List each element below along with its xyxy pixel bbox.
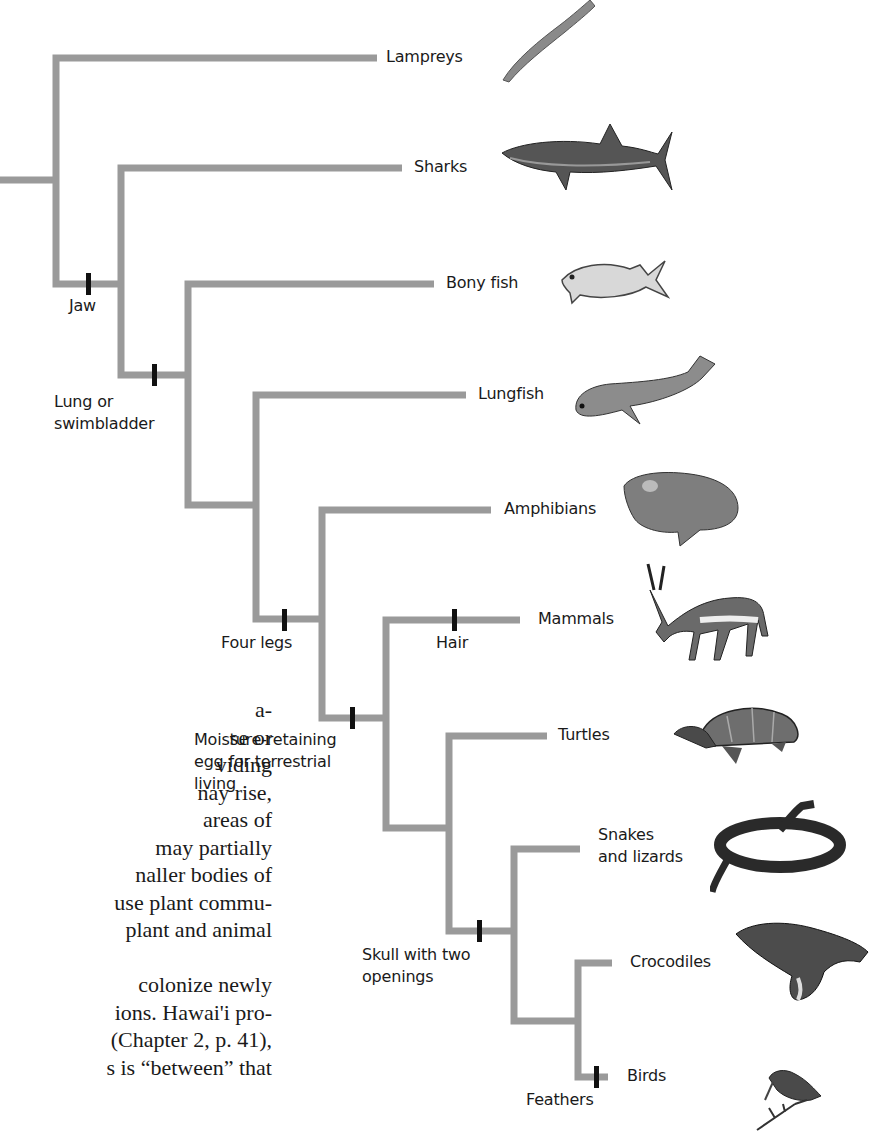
body-text-line: ions. Hawai'i pro- (0, 999, 272, 1027)
body-text-line: naller bodies of (0, 861, 272, 889)
lung-marker (152, 364, 157, 386)
body-text-line: plant and animal (0, 916, 272, 944)
shark-illustration (500, 118, 675, 198)
feathers-marker (594, 1066, 599, 1088)
trait-label-feathers: Feathers (526, 1090, 594, 1110)
taxon-label-lampreys: Lampreys (386, 47, 463, 67)
body-text-line: areas of (0, 806, 272, 834)
skull-marker (477, 920, 482, 942)
body-text-line: may partially (0, 834, 272, 862)
egg-marker (350, 707, 355, 729)
cladogram-figure: Lampreys Sharks Bony fish Lungfish Amphi… (0, 0, 872, 1133)
taxon-label-mammals: Mammals (538, 609, 614, 629)
trait-label-four-legs: Four legs (221, 633, 292, 653)
taxon-label-crocodiles: Crocodiles (630, 952, 711, 972)
body-text-line: (Chapter 2, p. 41), (0, 1026, 272, 1054)
trait-label-skull-line2: openings (362, 967, 433, 987)
branch-snakes (514, 849, 580, 1021)
taxon-label-amphibians: Amphibians (504, 499, 596, 519)
taxon-label-snakes-line1: Snakes (598, 825, 654, 845)
branch-turtles (449, 736, 547, 931)
trait-label-lung-line1: Lung or (54, 392, 113, 412)
taxon-label-birds: Birds (627, 1066, 666, 1086)
four-legs-marker (282, 609, 287, 631)
body-text-column: a- se or viding nay rise, areas of may p… (0, 696, 272, 1081)
snake-illustration (710, 800, 850, 895)
body-text-line: se or (0, 724, 272, 752)
body-text-line (0, 944, 272, 972)
lungfish-illustration (570, 350, 720, 430)
body-text-line: use plant commu- (0, 889, 272, 917)
bony-fish-illustration (560, 255, 670, 315)
trait-label-jaw: Jaw (69, 296, 96, 316)
hair-marker (452, 609, 457, 631)
taxon-label-bony-fish: Bony fish (446, 273, 518, 293)
branch-amphibians (322, 510, 491, 718)
crocodile-illustration (732, 918, 872, 1003)
turtle-illustration (672, 702, 802, 772)
body-text-line: viding (0, 751, 272, 779)
trait-label-hair: Hair (436, 633, 468, 653)
branch-sharks (121, 168, 402, 375)
bird-illustration (755, 1060, 825, 1133)
body-text-line: a- (0, 696, 272, 724)
frog-illustration (620, 468, 745, 548)
taxon-label-sharks: Sharks (414, 157, 467, 177)
taxon-label-turtles: Turtles (558, 725, 610, 745)
gazelle-illustration (640, 560, 775, 675)
body-text-line: colonize newly (0, 971, 272, 999)
trait-label-lung-line2: swimbladder (54, 414, 154, 434)
jaw-marker (86, 273, 91, 295)
body-text-line: nay rise, (0, 779, 272, 807)
trait-label-skull-line1: Skull with two (362, 945, 470, 965)
taxon-label-lungfish: Lungfish (478, 384, 544, 404)
body-text-line: s is “between” that (0, 1054, 272, 1082)
branch-crocodiles-birds (578, 963, 612, 1077)
lamprey-illustration (495, 0, 595, 85)
taxon-label-snakes-line2: and lizards (598, 847, 683, 867)
